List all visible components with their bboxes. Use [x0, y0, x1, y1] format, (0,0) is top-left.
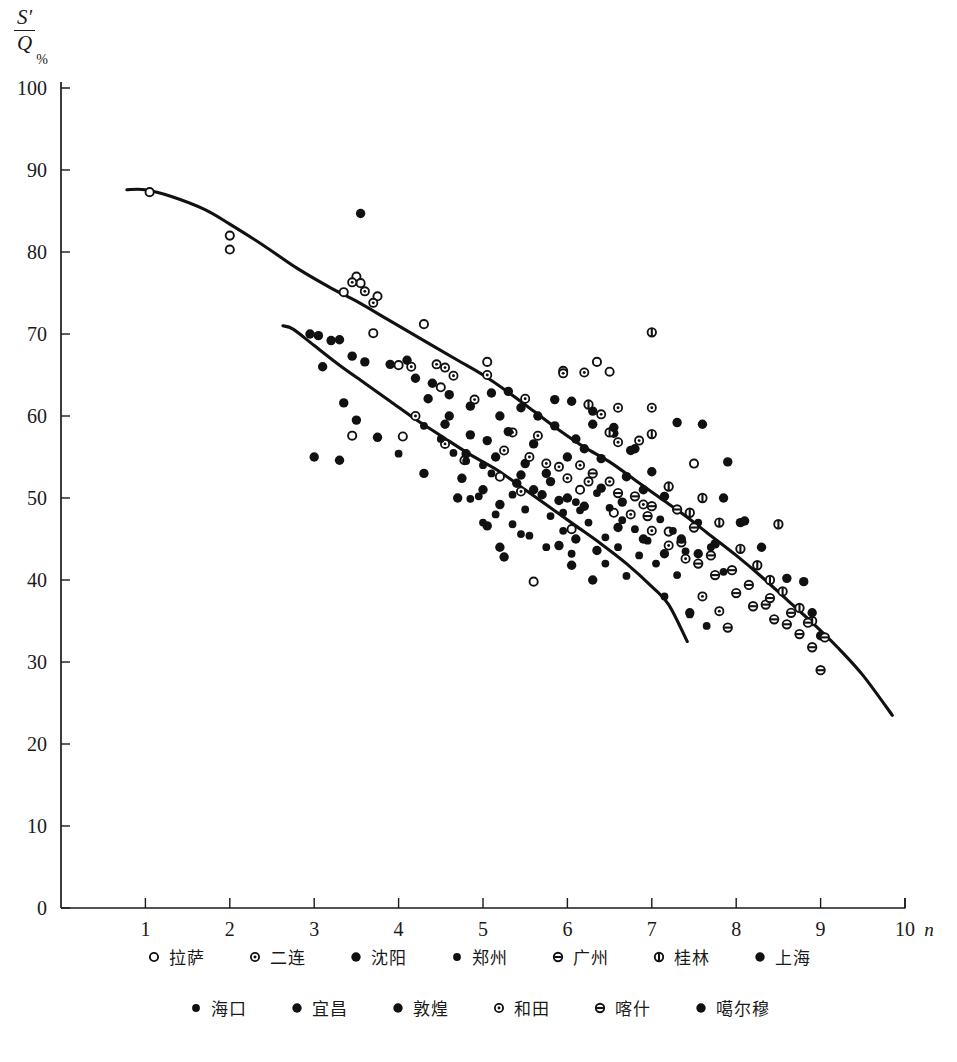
series-沈阳 — [305, 209, 825, 641]
data-point-filled-circle — [318, 362, 327, 371]
data-point-filled-circle — [487, 388, 496, 397]
data-point-dot-circle — [648, 404, 656, 412]
marker-ring — [593, 358, 601, 366]
legend-item-沈阳[interactable]: 沈阳 — [348, 944, 407, 969]
marker-dot — [559, 509, 567, 517]
data-point-hbar-circle — [673, 505, 681, 513]
data-point-filled-circle-small — [420, 422, 428, 430]
marker-ring — [606, 368, 614, 376]
legend-item-喀什[interactable]: 喀什 — [592, 995, 651, 1020]
marker-dot — [395, 450, 403, 458]
legend-item-上海[interactable]: 上海 — [752, 944, 811, 969]
marker-dot — [516, 403, 525, 412]
legend-marker-slot — [592, 1000, 608, 1016]
marker-dot — [521, 506, 529, 514]
marker-dot — [483, 436, 492, 445]
data-point-vbar-circle — [774, 520, 782, 528]
marker-dot — [571, 534, 580, 543]
legend-marker-slot — [491, 1000, 507, 1016]
legend-item-敦煌[interactable]: 敦煌 — [390, 995, 449, 1020]
data-point-filled-circle — [639, 485, 648, 494]
legend-item-拉萨[interactable]: 拉萨 — [146, 944, 205, 969]
data-point-filled-circle-small — [703, 622, 711, 630]
marker-dot — [720, 568, 728, 576]
marker-dot — [347, 351, 356, 360]
y-tick-label: 70 — [27, 323, 47, 345]
legend-item-二连[interactable]: 二连 — [247, 944, 306, 969]
series-噶尔穆 — [554, 516, 817, 617]
data-point-filled-circle — [571, 434, 580, 443]
data-point-dot-circle — [635, 437, 643, 445]
data-point-filled-circle — [807, 608, 816, 617]
marker-dot — [393, 1003, 402, 1012]
marker-dot — [517, 530, 525, 538]
data-point-filled-circle — [457, 474, 466, 483]
data-point-open-circle — [530, 578, 538, 586]
data-point-filled-circle-small — [453, 953, 461, 961]
data-point-filled-circle — [504, 427, 513, 436]
y-tick-label: 10 — [27, 815, 47, 837]
legend-item-广州[interactable]: 广州 — [550, 944, 609, 969]
marker-ring — [496, 473, 504, 481]
marker-ring — [530, 578, 538, 586]
marker-dot — [698, 420, 707, 429]
legend-item-噶尔穆[interactable]: 噶尔穆 — [693, 995, 770, 1020]
marker-dot — [537, 490, 546, 499]
marker-dot — [631, 525, 639, 533]
data-point-filled-circle-small — [614, 543, 622, 551]
data-point-filled-circle-small — [559, 509, 567, 517]
data-point-filled-circle-small — [466, 495, 474, 503]
marker-dot — [606, 504, 614, 512]
marker-dot — [580, 444, 589, 453]
x-tick-label: 2 — [225, 918, 235, 940]
data-point-filled-circle — [466, 430, 475, 439]
marker-dot — [461, 449, 470, 458]
data-point-filled-circle — [423, 394, 432, 403]
data-point-filled-circle — [512, 479, 521, 488]
series-桂林 — [584, 328, 816, 625]
marker-center-dot — [473, 398, 476, 401]
data-point-filled-circle — [609, 423, 618, 432]
marker-dot — [588, 420, 597, 429]
legend-item-桂林[interactable]: 桂林 — [651, 944, 710, 969]
data-point-filled-circle — [504, 387, 513, 396]
legend-label: 喀什 — [615, 995, 651, 1020]
marker-dot — [807, 608, 816, 617]
data-point-dot-circle — [639, 500, 647, 508]
legend-marker-dot-circle — [491, 1000, 507, 1016]
legend-item-宜昌[interactable]: 宜昌 — [289, 995, 348, 1020]
marker-dot — [192, 1004, 200, 1012]
data-point-filled-circle — [529, 439, 538, 448]
data-point-filled-circle — [592, 546, 601, 555]
marker-ring — [150, 952, 158, 960]
data-point-hbar-circle — [766, 594, 774, 602]
data-point-filled-circle — [491, 452, 500, 461]
legend-marker-vbar-circle — [651, 949, 667, 965]
data-point-hbar-circle — [749, 602, 757, 610]
data-point-filled-circle — [516, 403, 525, 412]
marker-dot — [339, 398, 348, 407]
legend-item-郑州[interactable]: 郑州 — [449, 944, 508, 969]
legend-item-和田[interactable]: 和田 — [491, 995, 550, 1020]
marker-dot — [445, 390, 454, 399]
y-tick-label: 80 — [27, 241, 47, 263]
data-point-filled-circle — [305, 329, 314, 338]
legend-item-海口[interactable]: 海口 — [188, 995, 247, 1020]
x-tick-label: 7 — [647, 918, 657, 940]
y-tick-label: 40 — [27, 569, 47, 591]
marker-dot — [437, 435, 445, 443]
data-point-filled-circle-small — [437, 435, 445, 443]
data-point-hbar-circle — [745, 581, 753, 589]
data-point-open-circle — [437, 383, 445, 391]
marker-dot — [351, 952, 360, 961]
data-point-filled-circle — [347, 351, 356, 360]
x-tick-label: 3 — [309, 918, 319, 940]
marker-dot — [585, 519, 593, 527]
data-point-hbar-circle — [643, 512, 651, 520]
data-point-filled-circle-small — [509, 520, 517, 528]
data-point-dot-circle — [517, 487, 525, 495]
data-point-filled-circle — [567, 397, 576, 406]
marker-center-dot — [617, 406, 620, 409]
data-point-filled-circle-small — [547, 512, 555, 520]
data-point-dot-circle — [563, 474, 571, 482]
